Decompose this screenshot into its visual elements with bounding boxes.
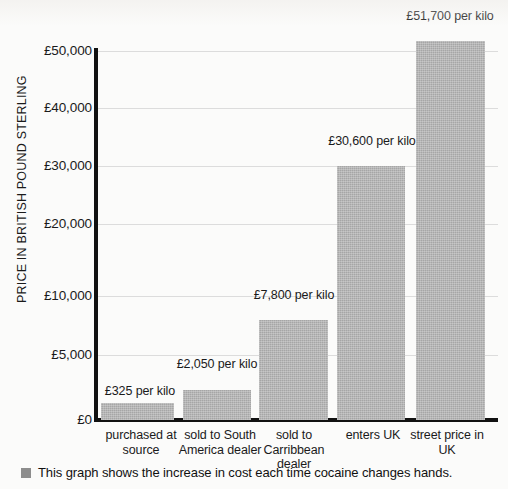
bar-value-purchased-at-source: £325 per kilo [90, 384, 190, 399]
bar-sold-to-carribbean-dealer[interactable] [259, 320, 328, 420]
bars-container [97, 10, 498, 420]
y-axis-title: PRICE IN BRITISH POUND STERLING [15, 103, 29, 303]
bar-purchased-at-source[interactable] [101, 403, 174, 420]
bar-value-street-price-in-uk: £51,700 per kilo [400, 9, 500, 24]
bar-sold-to-south-america-dealer[interactable] [183, 390, 251, 420]
bar-value-sold-to-south-america-dealer: £2,050 per kilo [167, 357, 267, 372]
y-tick-labels: £50,000 £40,000 £30,000 £20,000 £10,000 … [0, 10, 92, 421]
bar-value-enters-uk: £30,600 per kilo [322, 134, 422, 149]
y-tick-5000: £5,000 [6, 348, 92, 362]
bar-value-sold-to-carribbean-dealer: £7,800 per kilo [244, 288, 344, 303]
caption-text: This graph shows the increase in cost ea… [38, 466, 452, 480]
y-tick-50000: £50,000 [6, 44, 92, 58]
y-tick-0: £0 [6, 413, 92, 427]
legend-swatch-icon [21, 468, 31, 478]
bar-street-price-in-uk[interactable] [416, 41, 485, 420]
cocaine-price-bar-chart: £50,000 £40,000 £30,000 £20,000 £10,000 … [0, 0, 508, 489]
chart-caption: This graph shows the increase in cost ea… [21, 466, 452, 480]
x-label-enters-uk: enters UK [327, 428, 419, 443]
bar-enters-uk[interactable] [337, 166, 405, 420]
x-label-street-price-in-uk: street price in UK [408, 428, 486, 457]
